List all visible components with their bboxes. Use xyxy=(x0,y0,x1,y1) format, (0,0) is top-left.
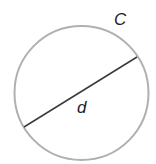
circumference-label: C xyxy=(114,11,126,28)
circle-shape xyxy=(15,26,149,160)
circle-diagram xyxy=(0,0,156,164)
diameter-label: d xyxy=(77,99,86,116)
